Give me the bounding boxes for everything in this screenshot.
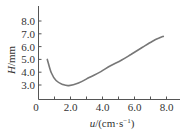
x-axis-title-close: ) (131, 117, 135, 130)
x-tick-labels: 02.04.06.08.0 (33, 101, 174, 113)
y-tick-label: 5.0 (21, 53, 35, 65)
x-tick-label: 0 (33, 101, 39, 113)
x-tick-label: 4.0 (96, 101, 110, 113)
y-axis-title: H/mm (5, 45, 17, 75)
y-tick-label: 3.0 (21, 79, 35, 91)
x-tick-label: 6.0 (128, 101, 142, 113)
x-axis-title: u/(cm·s−1) (90, 117, 135, 130)
y-tick-label: 8.0 (21, 15, 35, 27)
x-tick-label: 8.0 (160, 101, 174, 113)
y-tick-label: 7.0 (21, 28, 35, 40)
x-axis-title-unit: /(cm·s (95, 117, 123, 130)
y-tick-label: 6.0 (21, 41, 35, 53)
axes: 02.04.06.08.0 3.04.05.06.07.08.0 (21, 6, 180, 113)
y-tick-label: 4.0 (21, 66, 35, 78)
y-axis-title-unit: /mm (5, 45, 17, 66)
line-chart: 02.04.06.08.0 3.04.05.06.07.08.0 H/mm u/… (0, 0, 182, 136)
series-line-h (47, 36, 163, 85)
y-tick-labels: 3.04.05.06.07.08.0 (21, 15, 35, 91)
x-tick-label: 2.0 (64, 101, 78, 113)
